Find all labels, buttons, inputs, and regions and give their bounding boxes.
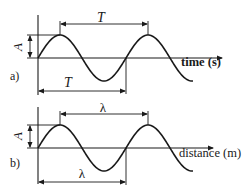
period-label-top-a: T [97,10,106,25]
wavelength-label-bottom-b: λ [79,166,86,181]
axis-label-a: time (s) [181,55,221,69]
amplitude-label-b: A [10,132,25,141]
wavelength-label-top-b: λ [100,100,107,115]
wave-diagram: T T A time (s) a) λ λ A distance (m) b) [0,0,247,193]
period-label-bottom-a: T [64,75,73,90]
panel-label-a: a) [10,69,19,83]
axis-label-b: distance (m) [179,146,241,160]
amplitude-label-a: A [10,43,25,52]
panel-label-b: b) [10,156,20,170]
